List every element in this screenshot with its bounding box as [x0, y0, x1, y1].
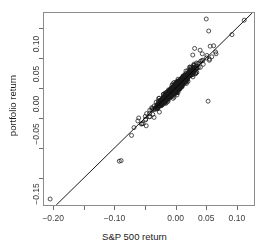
x-tick	[84, 206, 85, 210]
y-tick-label: 0.10	[31, 27, 41, 61]
x-tick	[237, 206, 238, 210]
y-tick-label: −0.15	[31, 177, 41, 211]
y-tick-label: −0.05	[31, 117, 41, 151]
x-tick	[176, 206, 177, 210]
plot-frame	[43, 12, 255, 206]
x-tick	[145, 206, 146, 210]
scatter-plot-figure: −0.20−0.100.000.050.10 −0.15−0.050.000.0…	[0, 0, 269, 249]
x-tick-label: −0.20	[33, 213, 73, 223]
y-axis-title: portfolio return	[7, 58, 18, 154]
x-tick	[53, 206, 54, 210]
x-tick-label: −0.10	[94, 213, 134, 223]
x-tick-label: 0.10	[217, 213, 257, 223]
y-tick-label: 0.00	[31, 87, 41, 121]
scatter-points-canvas	[44, 13, 254, 205]
y-tick-label: 0.05	[31, 57, 41, 91]
x-axis-title: S&P 500 return	[0, 231, 269, 242]
x-tick	[114, 206, 115, 210]
x-tick	[206, 206, 207, 210]
